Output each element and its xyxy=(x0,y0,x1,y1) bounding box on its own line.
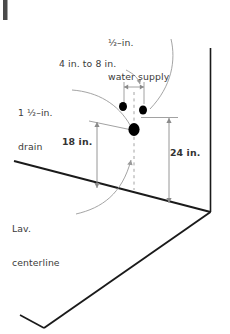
corner-artifact-mark xyxy=(3,0,8,20)
centerline-leader-line xyxy=(76,160,131,214)
floor-front-edge-line xyxy=(44,212,211,328)
label-drain-line1: 1 ½–in. xyxy=(18,107,53,118)
label-supply-spacing-range: 4 in. to 8 in. xyxy=(59,58,116,69)
label-water-supply-line1: ½–in. xyxy=(108,37,169,48)
label-drain-height: 18 in. xyxy=(62,136,92,147)
floor-left-edge-line xyxy=(20,315,44,328)
label-water-supply-line2: water supply xyxy=(108,71,169,82)
label-lav-centerline-line2: centerline xyxy=(12,257,60,268)
plumbing-rough-in-diagram: ½–in. water supply 4 in. to 8 in. 1 ½–in… xyxy=(0,0,230,334)
label-supply-height: 24 in. xyxy=(170,147,200,158)
label-lav-centerline: Lav. centerline xyxy=(12,200,60,291)
centerline-leader-arrow-icon xyxy=(127,160,132,165)
drain-outlet-dot xyxy=(128,123,139,136)
water-supply-right-dot xyxy=(139,105,147,114)
label-drain: 1 ½–in. drain xyxy=(18,84,53,175)
label-drain-line2: drain xyxy=(18,141,53,152)
supply-height-arrow-top-icon xyxy=(166,118,171,123)
label-lav-centerline-line1: Lav. xyxy=(12,223,60,234)
label-water-supply: ½–in. water supply xyxy=(108,14,169,105)
drain-height-arrow-bottom-icon xyxy=(94,183,99,188)
